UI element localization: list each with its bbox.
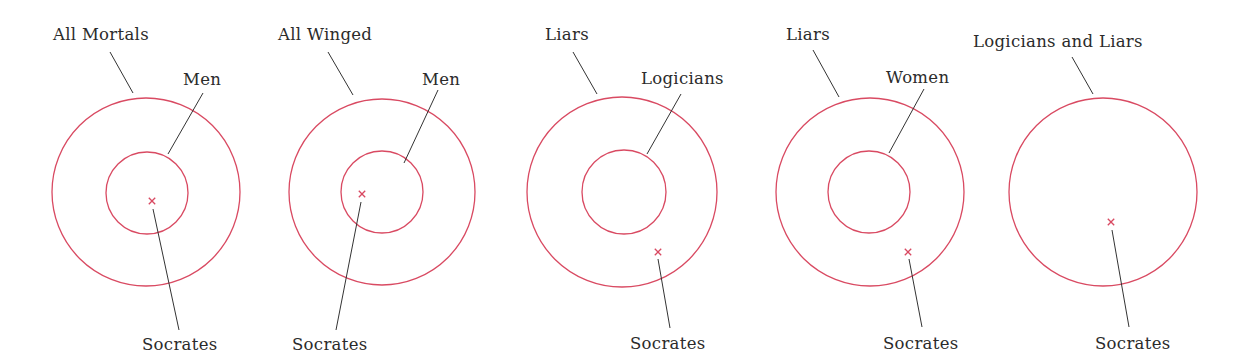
- outer-set-label: Logicians and Liars: [973, 32, 1143, 51]
- point-label: Socrates: [292, 335, 367, 354]
- outer-set-label: Liars: [786, 25, 830, 44]
- socrates-point-icon: [1108, 219, 1114, 225]
- point-label-leader: [658, 259, 670, 328]
- point-label: Socrates: [630, 334, 705, 353]
- point-label: Socrates: [1095, 334, 1170, 353]
- inner-label-leader: [647, 94, 681, 154]
- outer-label-leader: [813, 50, 839, 97]
- diagram-all-mortals-men: All Mortals Men Socrates: [52, 25, 240, 354]
- point-label-leader: [909, 259, 922, 327]
- outer-set-label: Liars: [545, 25, 589, 44]
- socrates-point-icon: [655, 249, 661, 255]
- diagram-liars-logicians: Liars Logicians Socrates: [527, 25, 724, 353]
- inner-set-label: Logicians: [641, 69, 724, 88]
- diagram-logicians-and-liars: Logicians and Liars Socrates: [973, 32, 1197, 353]
- point-label: Socrates: [142, 335, 217, 354]
- inner-set-circle: [106, 152, 188, 234]
- outer-set-circle: [776, 98, 964, 286]
- point-label-leader: [153, 209, 179, 330]
- socrates-point-icon: [359, 191, 365, 197]
- inner-set-label: Men: [183, 70, 221, 89]
- socrates-point-icon: [149, 198, 155, 204]
- outer-label-leader: [573, 52, 597, 94]
- euler-diagrams-figure: All Mortals Men Socrates All Winged Men …: [0, 0, 1246, 364]
- outer-set-label: All Winged: [277, 25, 372, 44]
- point-label-leader: [1112, 230, 1129, 327]
- socrates-point-icon: [905, 249, 911, 255]
- outer-set-label: All Mortals: [52, 25, 149, 44]
- inner-set-label: Men: [422, 70, 460, 89]
- outer-set-circle: [1009, 98, 1197, 286]
- point-label: Socrates: [883, 334, 958, 353]
- outer-label-leader: [1072, 57, 1093, 94]
- diagram-all-winged-men: All Winged Men Socrates: [277, 25, 475, 354]
- inner-set-circle: [341, 151, 423, 233]
- inner-set-label: Women: [886, 68, 949, 87]
- diagram-liars-women: Liars Women Socrates: [776, 25, 964, 353]
- inner-set-circle: [828, 151, 910, 233]
- outer-label-leader: [328, 52, 353, 95]
- outer-set-circle: [527, 97, 717, 287]
- inner-set-circle: [582, 150, 666, 234]
- outer-set-circle: [52, 98, 240, 286]
- outer-set-circle: [289, 99, 475, 285]
- outer-label-leader: [110, 52, 133, 93]
- inner-label-leader: [404, 90, 438, 163]
- inner-label-leader: [889, 89, 924, 153]
- diagram-canvas: All Mortals Men Socrates All Winged Men …: [0, 0, 1246, 364]
- point-label-leader: [336, 202, 361, 330]
